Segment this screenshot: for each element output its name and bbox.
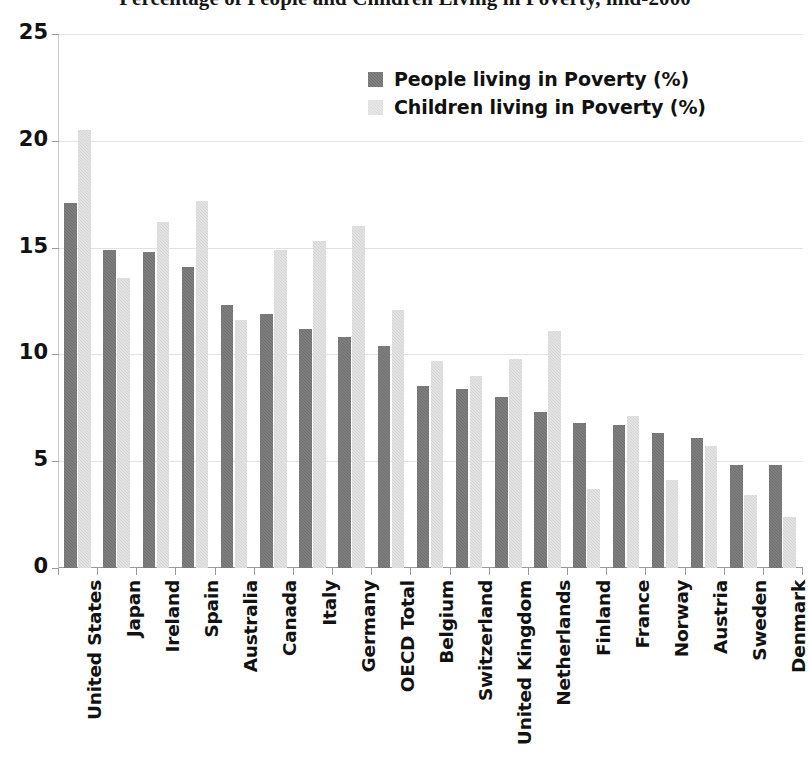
bar-children[interactable] bbox=[548, 331, 561, 568]
x-axis-tick-mark bbox=[254, 568, 255, 575]
bar-children[interactable] bbox=[431, 361, 444, 568]
x-axis-tick-mark bbox=[763, 568, 764, 575]
bar-people[interactable] bbox=[299, 329, 312, 568]
x-axis-tick-mark bbox=[606, 568, 607, 575]
chart-legend: People living in Poverty (%) Children li… bbox=[368, 66, 698, 122]
bar-group bbox=[299, 34, 326, 568]
x-axis-category-label: Austria bbox=[712, 580, 731, 654]
bar-people[interactable] bbox=[260, 314, 273, 568]
bar-people[interactable] bbox=[573, 423, 586, 568]
x-axis-category-label: United Kingdom bbox=[516, 580, 535, 745]
bar-group bbox=[143, 34, 170, 568]
bar-children[interactable] bbox=[235, 320, 248, 568]
x-axis-tick-mark bbox=[567, 568, 568, 575]
bar-group bbox=[260, 34, 287, 568]
bar-people[interactable] bbox=[182, 267, 195, 568]
bar-people[interactable] bbox=[417, 386, 430, 568]
x-axis-category-label: Spain bbox=[203, 580, 222, 638]
x-axis-category-label: Germany bbox=[360, 580, 379, 672]
bar-children[interactable] bbox=[274, 250, 287, 568]
bar-people[interactable] bbox=[730, 465, 743, 568]
y-axis-tick-label: 20 bbox=[4, 129, 48, 150]
x-axis-tick-mark bbox=[97, 568, 98, 575]
bar-children[interactable] bbox=[392, 310, 405, 568]
bar-people[interactable] bbox=[64, 203, 77, 568]
x-axis-tick-mark bbox=[489, 568, 490, 575]
x-axis-tick-mark bbox=[685, 568, 686, 575]
bar-children[interactable] bbox=[470, 376, 483, 568]
bar-children[interactable] bbox=[313, 241, 326, 568]
bar-children[interactable] bbox=[78, 130, 91, 568]
x-axis-category-label: Finland bbox=[595, 580, 614, 656]
x-axis-category-label: United States bbox=[86, 580, 105, 720]
x-axis-category-label: Sweden bbox=[751, 580, 770, 661]
x-axis-tick-mark bbox=[293, 568, 294, 575]
y-axis-tick-label: 25 bbox=[4, 22, 48, 43]
bar-children[interactable] bbox=[196, 201, 209, 568]
bar-children[interactable] bbox=[509, 359, 522, 568]
legend-swatch-people-icon bbox=[368, 72, 383, 87]
x-axis-category-label: Canada bbox=[281, 580, 300, 656]
x-axis-tick-mark bbox=[528, 568, 529, 575]
bar-group bbox=[769, 34, 796, 568]
y-axis-tick-label: 15 bbox=[4, 236, 48, 257]
x-axis-tick-mark bbox=[645, 568, 646, 575]
x-axis: United StatesJapanIrelandSpainAustraliaC… bbox=[58, 568, 802, 783]
x-axis-category-label: Australia bbox=[242, 580, 261, 672]
bar-children[interactable] bbox=[666, 480, 679, 568]
x-axis-category-label: France bbox=[634, 580, 653, 649]
x-axis-tick-mark bbox=[371, 568, 372, 575]
x-axis-category-label: OECD Total bbox=[399, 580, 418, 692]
bar-children[interactable] bbox=[117, 278, 130, 568]
legend-swatch-children-icon bbox=[368, 100, 383, 115]
bar-people[interactable] bbox=[221, 305, 234, 568]
x-axis-tick-mark bbox=[58, 568, 59, 575]
bar-people[interactable] bbox=[378, 346, 391, 568]
bar-group bbox=[221, 34, 248, 568]
bar-children[interactable] bbox=[157, 222, 170, 568]
bar-children[interactable] bbox=[352, 226, 365, 568]
x-axis-category-label: Italy bbox=[321, 580, 340, 626]
bar-people[interactable] bbox=[338, 337, 351, 568]
x-axis-category-label: Netherlands bbox=[555, 580, 574, 706]
legend-item-people: People living in Poverty (%) bbox=[368, 66, 698, 92]
x-axis-category-label: Norway bbox=[673, 580, 692, 657]
x-axis-tick-mark bbox=[724, 568, 725, 575]
bar-children[interactable] bbox=[744, 495, 757, 568]
x-axis-tick-mark bbox=[410, 568, 411, 575]
bar-group bbox=[338, 34, 365, 568]
bar-people[interactable] bbox=[103, 250, 116, 568]
bar-children[interactable] bbox=[705, 446, 718, 568]
legend-label-children: Children living in Poverty (%) bbox=[394, 96, 706, 118]
bar-people[interactable] bbox=[495, 397, 508, 568]
bar-people[interactable] bbox=[769, 465, 782, 568]
x-axis-tick-mark bbox=[332, 568, 333, 575]
bar-children[interactable] bbox=[587, 489, 600, 568]
bar-people[interactable] bbox=[652, 433, 665, 568]
bar-group bbox=[103, 34, 130, 568]
x-axis-category-label: Ireland bbox=[164, 580, 183, 652]
bar-people[interactable] bbox=[456, 389, 469, 568]
bar-group bbox=[64, 34, 91, 568]
bar-people[interactable] bbox=[534, 412, 547, 568]
x-axis-tick-mark bbox=[215, 568, 216, 575]
bar-people[interactable] bbox=[691, 438, 704, 568]
bar-people[interactable] bbox=[143, 252, 156, 568]
x-axis-tick-mark bbox=[175, 568, 176, 575]
y-axis-tick-label: 0 bbox=[4, 556, 48, 577]
legend-item-children: Children living in Poverty (%) bbox=[368, 94, 698, 120]
page-title: Percentage of People and Children Living… bbox=[0, 0, 810, 14]
x-axis-category-label: Switzerland bbox=[477, 580, 496, 701]
x-axis-category-label: Japan bbox=[125, 580, 144, 637]
bar-children[interactable] bbox=[783, 517, 796, 568]
y-axis-tick-label: 5 bbox=[4, 449, 48, 470]
bar-group bbox=[730, 34, 757, 568]
bar-children[interactable] bbox=[627, 416, 640, 568]
bar-people[interactable] bbox=[613, 425, 626, 568]
x-axis-category-label: Belgium bbox=[438, 580, 457, 664]
x-axis-tick-mark bbox=[802, 568, 803, 575]
bar-group bbox=[182, 34, 209, 568]
y-axis-tick-label: 10 bbox=[4, 342, 48, 363]
legend-label-people: People living in Poverty (%) bbox=[394, 68, 689, 90]
x-axis-category-label: Denmark bbox=[790, 580, 809, 673]
